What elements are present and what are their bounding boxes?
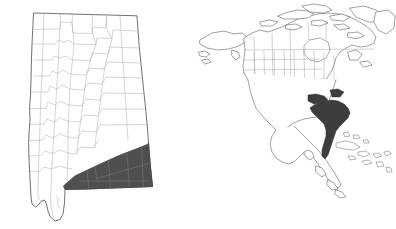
alabama-map-svg <box>0 0 198 229</box>
north-america-map-svg <box>198 0 396 229</box>
caribbean-islands <box>336 132 392 172</box>
state-detail-map <box>0 0 198 229</box>
context-map <box>198 0 396 229</box>
alaska-landmass <box>199 31 247 64</box>
locator-map-figure <box>0 0 396 229</box>
